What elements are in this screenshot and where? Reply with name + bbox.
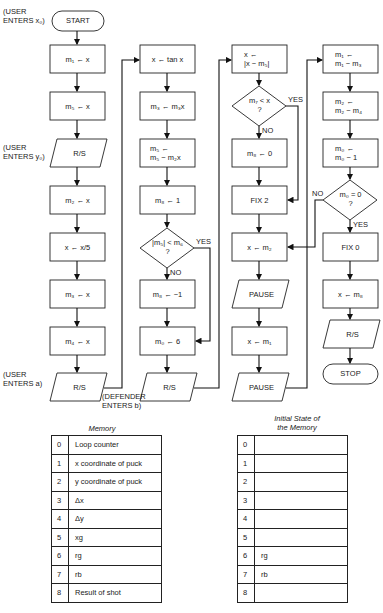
col3-pause2: PAUSE xyxy=(234,383,289,392)
table-row: 3 xyxy=(238,491,348,510)
col3-step1: x ← |x − m₅| xyxy=(232,50,287,68)
col1-rs1: R/S xyxy=(52,149,107,158)
memory-table: 0Loop counter 1x coordinate of puck 2y c… xyxy=(51,435,162,603)
col3-decision: m₇ < x ? xyxy=(232,96,287,114)
col2-rs: R/S xyxy=(142,383,197,392)
col3-yes: YES xyxy=(288,95,303,104)
note-defender-b: (DEFENDER ENTERS b) xyxy=(102,392,146,410)
col1-step4: x ← x/5 xyxy=(50,243,105,252)
col4-rs: R/S xyxy=(325,330,380,339)
table-row: 1x coordinate of puck xyxy=(52,454,162,473)
table-row: 4Δy xyxy=(52,510,162,529)
col1-rs2: R/S xyxy=(52,383,107,392)
table-row: 1 xyxy=(238,454,348,473)
table-row: 2y coordinate of puck xyxy=(52,473,162,492)
col4-step3: m₀ ← m₀ − 1 xyxy=(323,144,378,162)
table-row: 2 xyxy=(238,473,348,492)
table-row: 3Δx xyxy=(52,491,162,510)
col4-step4: FIX 0 xyxy=(323,243,378,252)
col2-step2: m₃ ← m₃x xyxy=(140,102,195,111)
table-row: 6rg xyxy=(52,547,162,566)
col4-decision: m₀ = 0 ? xyxy=(323,190,378,208)
table-row: 8 xyxy=(238,584,348,603)
col1-step2: m₅ ← x xyxy=(50,102,105,111)
col2-step5: m₈ ← −1 xyxy=(140,290,195,299)
col1-step1: m₁ ← x xyxy=(50,55,105,64)
col3-no: NO xyxy=(262,126,273,135)
col3-pause1: PAUSE xyxy=(234,290,289,299)
col2-step1: x ← tan x xyxy=(140,55,195,64)
col3-step5: x ← m₁ xyxy=(232,337,287,346)
note-user-x0: (USER ENTERS x₀) xyxy=(3,7,45,25)
table-row: 7rb xyxy=(52,565,162,584)
col1-step3: m₂ ← x xyxy=(50,196,105,205)
note-user-y0: (USER ENTERS y₀) xyxy=(3,143,45,161)
col4-no: NO xyxy=(312,189,323,198)
col2-step3: m₅ ← m₅ − m₂x xyxy=(140,144,195,162)
col3-step2: m₈ ← 0 xyxy=(232,149,287,158)
col2-no: NO xyxy=(170,268,181,277)
table-row: 5 xyxy=(238,528,348,547)
start-label: START xyxy=(52,16,104,25)
col3-step3: FIX 2 xyxy=(232,196,287,205)
col4-step1: m₁ ← m₁ − m₃ xyxy=(323,50,378,68)
stop-label: STOP xyxy=(323,369,378,378)
table-row: 6rg xyxy=(238,547,348,566)
table-row: 0 xyxy=(238,436,348,455)
col1-step5: m₃ ← x xyxy=(50,290,105,299)
col2-step6: m₀ ← 6 xyxy=(140,337,195,346)
col4-step2: m₂ ← m₂ − m₄ xyxy=(323,97,378,115)
initial-memory-table: 0 1 2 3 4 5 6rg 7rb 8 xyxy=(237,435,348,603)
table-row: 4 xyxy=(238,510,348,529)
note-user-a: (USER ENTERS a) xyxy=(3,370,42,388)
col4-step5: x ← m₈ xyxy=(323,290,378,299)
col2-yes: YES xyxy=(196,237,211,246)
col3-step4: x ← m₂ xyxy=(232,243,287,252)
table-row: 0Loop counter xyxy=(52,436,162,455)
initial-memory-caption: Initial State of the Memory xyxy=(237,414,357,432)
table-row: 7rb xyxy=(238,565,348,584)
table-row: 5xg xyxy=(52,528,162,547)
col1-step6: m₄ ← x xyxy=(50,337,105,346)
table-row: 8Result of shot xyxy=(52,584,162,603)
col2-step4: m₈ ← 1 xyxy=(140,196,195,205)
col4-yes: YES xyxy=(353,220,368,229)
col2-decision: |m₅| < m₆ ? xyxy=(140,238,195,256)
memory-caption: Memory xyxy=(52,424,152,433)
